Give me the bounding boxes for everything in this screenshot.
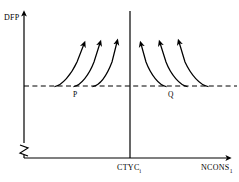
left-trajectory-group [55, 42, 117, 87]
ctyc-text: CTYC [117, 163, 140, 172]
left-trajectory-2 [74, 43, 100, 87]
point-label-q: Q [168, 90, 173, 99]
right-trajectory-3 [179, 42, 208, 87]
x-axis-label-ncons: NCONS1 [201, 163, 233, 172]
x-axis-tick-label-ctyc: CTYCi [117, 163, 141, 172]
ncons-subscript: 1 [230, 168, 233, 174]
left-trajectory-1 [55, 44, 84, 87]
right-trajectory-group [141, 42, 208, 87]
ncons-text: NCONS [201, 163, 230, 172]
diagram-canvas [0, 0, 239, 182]
point-label-p: P [73, 90, 77, 99]
right-trajectory-2 [160, 43, 187, 87]
phase-diagram-figure: DFP CTYCi NCONS1 P Q [0, 0, 239, 182]
y-axis-label: DFP [4, 13, 20, 22]
axis-break-icon [20, 145, 28, 156]
ctyc-subscript: i [140, 168, 142, 174]
left-trajectory-3 [93, 42, 117, 87]
